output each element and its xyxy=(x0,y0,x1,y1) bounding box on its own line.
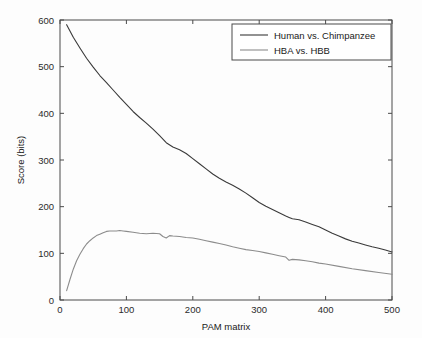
line-chart: 0100200300400500 0100200300400500600 PAM… xyxy=(0,0,422,338)
y-axis-ticks xyxy=(60,20,392,300)
chart-legend: Human vs. ChimpanzeeHBA vs. HBB xyxy=(232,24,391,60)
x-axis-ticks xyxy=(60,20,392,300)
legend-label-1: Human vs. Chimpanzee xyxy=(274,30,375,41)
y-axis-tick-labels: 0100200300400500600 xyxy=(38,15,54,306)
y-tick-label: 100 xyxy=(38,248,54,259)
y-tick-label: 400 xyxy=(38,108,54,119)
legend-label-2: HBA vs. HBB xyxy=(274,45,330,56)
axes-frame xyxy=(60,20,392,300)
x-tick-label: 0 xyxy=(57,304,62,315)
plot-frame xyxy=(60,20,392,300)
data-series-group xyxy=(67,25,392,291)
figure-container: 0100200300400500 0100200300400500600 PAM… xyxy=(0,0,422,338)
y-tick-label: 500 xyxy=(38,61,54,72)
x-tick-label: 500 xyxy=(384,304,400,315)
x-axis-title: PAM matrix xyxy=(202,321,251,332)
x-axis-tick-labels: 0100200300400500 xyxy=(57,304,400,315)
x-tick-label: 300 xyxy=(251,304,267,315)
y-tick-label: 600 xyxy=(38,15,54,26)
y-tick-label: 300 xyxy=(38,155,54,166)
series-line-2 xyxy=(67,230,392,290)
x-tick-label: 100 xyxy=(118,304,134,315)
x-tick-label: 200 xyxy=(185,304,201,315)
y-tick-label: 200 xyxy=(38,201,54,212)
y-tick-label: 0 xyxy=(49,295,54,306)
y-axis-title: Score (bits) xyxy=(15,136,26,185)
x-tick-label: 400 xyxy=(318,304,334,315)
